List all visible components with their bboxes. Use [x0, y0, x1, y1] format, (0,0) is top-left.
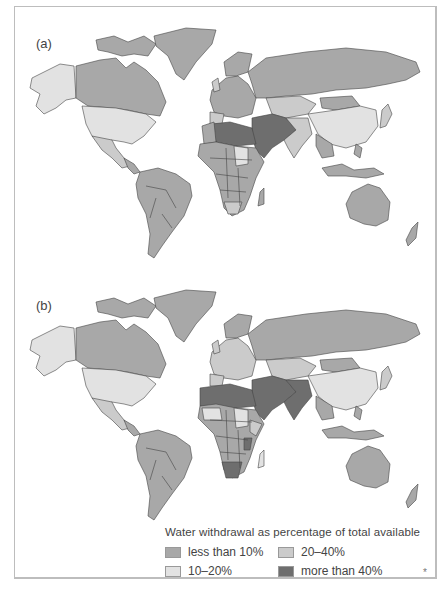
region-alaska	[30, 64, 76, 114]
region-australia	[346, 446, 390, 488]
region-madagascar	[258, 450, 264, 468]
region-philippines	[354, 406, 362, 420]
region-south-africa	[222, 462, 242, 478]
legend-item-more-than-40: more than 40%	[278, 564, 418, 578]
region-sahel	[202, 408, 222, 420]
region-japan	[380, 366, 392, 390]
legend-swatch	[278, 566, 294, 577]
region-maghreb	[202, 122, 216, 144]
footnote-asterisk: *	[423, 567, 427, 578]
region-greenland	[154, 28, 216, 80]
region-scandinavia	[224, 52, 252, 76]
region-philippines	[354, 144, 362, 158]
region-russia	[248, 310, 420, 360]
region-south-america	[136, 168, 192, 258]
world-map-b	[16, 280, 436, 530]
region-indonesia	[322, 164, 384, 178]
region-north-africa	[200, 384, 256, 408]
legend-item-20-40: 20–40%	[278, 545, 418, 559]
region-sudan	[234, 408, 248, 428]
legend-swatch	[278, 547, 294, 558]
legend-swatch	[165, 566, 181, 577]
region-iberia	[210, 112, 224, 124]
region-scandinavia	[224, 314, 252, 338]
world-map-a	[16, 18, 436, 268]
region-alaska	[30, 326, 76, 376]
region-japan	[380, 104, 392, 128]
region-arctic-islands	[96, 298, 156, 318]
region-madagascar	[258, 188, 264, 206]
region-russia	[248, 48, 420, 98]
region-south-america	[136, 430, 192, 520]
region-new-zealand	[406, 484, 418, 508]
legend-title: Water withdrawal as percentage of total …	[165, 526, 435, 538]
region-iberia	[210, 374, 224, 386]
region-arctic-islands	[96, 36, 156, 56]
legend-item-10-20: 10–20%	[165, 564, 278, 578]
region-australia	[346, 184, 390, 226]
region-indonesia	[322, 426, 384, 440]
map-legend: Water withdrawal as percentage of total …	[165, 526, 435, 578]
region-new-zealand	[406, 222, 418, 246]
legend-swatch	[165, 547, 181, 558]
region-sudan	[234, 146, 248, 166]
legend-item-less-than-10: less than 10%	[165, 545, 278, 559]
region-greenland	[154, 290, 216, 342]
